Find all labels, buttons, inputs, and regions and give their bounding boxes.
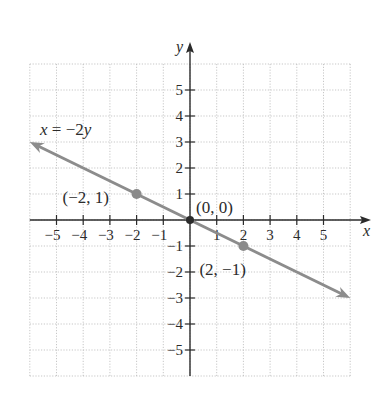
x-tick-label: −2 (125, 227, 141, 243)
point-label: (2, −1) (199, 260, 245, 279)
x-tick-label: 2 (240, 227, 248, 243)
y-tick-label: −4 (167, 316, 183, 332)
y-tick-label: −2 (167, 264, 183, 280)
equation-y: y (82, 120, 92, 139)
point-label: (0, 0) (196, 198, 233, 217)
x-tick-label: 4 (293, 227, 301, 243)
point-label: (−2, 1) (63, 188, 109, 207)
y-tick-label: −1 (167, 238, 183, 254)
coordinate-plane: x y −5−4−3−2−112345−5−4−3−2−112345 (−2, … (0, 0, 389, 403)
equation-label: x = −2y (39, 120, 92, 139)
x-tick-label: −1 (151, 227, 167, 243)
x-tick-label: 3 (266, 227, 274, 243)
y-tick-label: 4 (176, 108, 184, 124)
x-tick-label: 5 (320, 227, 328, 243)
x-tick-label: −4 (71, 227, 87, 243)
equation-mid: = −2 (48, 120, 84, 139)
data-point (238, 241, 248, 251)
y-tick-label: −3 (167, 290, 183, 306)
y-axis-label: y (174, 38, 184, 56)
x-tick-label: −5 (45, 227, 61, 243)
y-tick-label: −5 (167, 342, 183, 358)
y-tick-label: 3 (176, 134, 184, 150)
data-point (132, 189, 142, 199)
y-tick-label: 1 (176, 186, 184, 202)
x-axis-label: x (362, 222, 370, 239)
y-tick-label: 5 (176, 82, 184, 98)
data-point (186, 216, 194, 224)
x-tick-label: −3 (98, 227, 114, 243)
y-tick-label: 2 (176, 160, 184, 176)
